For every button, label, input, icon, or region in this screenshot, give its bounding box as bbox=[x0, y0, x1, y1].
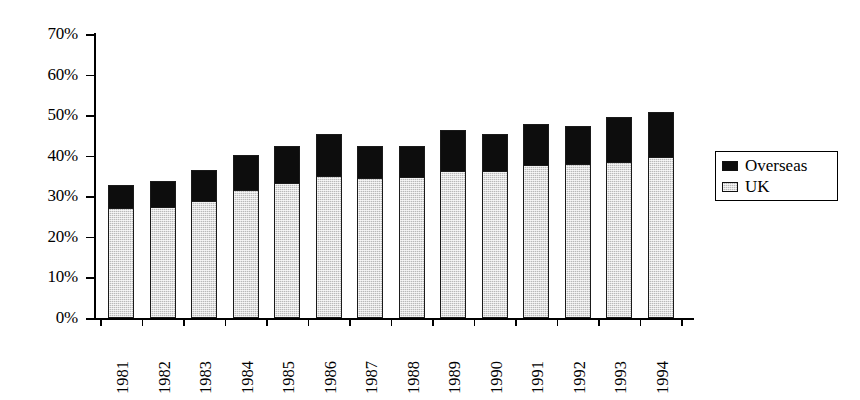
bar-1987 bbox=[357, 146, 383, 318]
x-axis-tick bbox=[515, 318, 517, 326]
y-axis-tick-label: 30% bbox=[0, 186, 78, 206]
bar-segment-overseas bbox=[400, 147, 424, 177]
x-axis-label-text: 1981 bbox=[113, 361, 133, 394]
x-axis-label-text: 1993 bbox=[611, 361, 631, 394]
x-axis-label-1993: 1993 bbox=[609, 330, 629, 394]
y-axis-tick bbox=[86, 156, 94, 158]
x-axis-label-text: 1991 bbox=[528, 361, 548, 394]
x-axis-label-text: 1989 bbox=[445, 361, 465, 394]
bar-segment-overseas bbox=[441, 131, 465, 172]
bar-segment-overseas bbox=[192, 171, 216, 201]
bar-segment-overseas bbox=[358, 147, 382, 179]
x-axis-label-1984: 1984 bbox=[236, 330, 256, 394]
bar-segment-uk bbox=[275, 183, 299, 317]
x-axis-label-text: 1987 bbox=[362, 361, 382, 394]
plot-area bbox=[95, 34, 680, 318]
bar-segment-uk bbox=[109, 208, 133, 317]
legend-item-uk: UK bbox=[722, 178, 831, 195]
x-axis-label-text: 1988 bbox=[404, 361, 424, 394]
bar-1994 bbox=[648, 112, 674, 318]
legend-item-overseas: Overseas bbox=[722, 157, 831, 174]
x-axis-label-text: 1984 bbox=[238, 361, 258, 394]
y-axis-tick-label: 70% bbox=[0, 24, 78, 44]
y-axis-tick bbox=[86, 34, 94, 36]
bar-1983 bbox=[191, 170, 217, 318]
bar-1991 bbox=[523, 124, 549, 318]
bar-segment-overseas bbox=[566, 127, 590, 165]
bar-1981 bbox=[108, 185, 134, 318]
x-axis-label-1985: 1985 bbox=[277, 330, 297, 394]
bar-segment-uk bbox=[524, 165, 548, 317]
bar-segment-uk bbox=[607, 162, 631, 317]
bar-1990 bbox=[482, 134, 508, 318]
x-axis-tick bbox=[225, 318, 227, 326]
x-axis-tick bbox=[100, 318, 102, 326]
bar-segment-overseas bbox=[234, 156, 258, 190]
x-axis-label-1988: 1988 bbox=[402, 330, 422, 394]
x-axis-label-1992: 1992 bbox=[568, 330, 588, 394]
bar-segment-uk bbox=[566, 164, 590, 317]
bar-segment-uk bbox=[234, 190, 258, 317]
overseas-swatch-icon bbox=[722, 161, 738, 171]
bar-segment-uk bbox=[441, 171, 465, 317]
y-axis-tick-label: 10% bbox=[0, 267, 78, 287]
x-axis-tick bbox=[432, 318, 434, 326]
chart-legend: Overseas UK bbox=[715, 151, 838, 201]
bar-segment-uk bbox=[317, 176, 341, 317]
y-axis-tick bbox=[86, 75, 94, 77]
bar-segment-uk bbox=[483, 171, 507, 317]
bar-segment-uk bbox=[151, 207, 175, 317]
x-axis-tick bbox=[266, 318, 268, 326]
x-axis-tick bbox=[183, 318, 185, 326]
x-axis-tick bbox=[349, 318, 351, 326]
x-axis-label-text: 1985 bbox=[279, 361, 299, 394]
x-axis-tick bbox=[640, 318, 642, 326]
x-axis-label-1982: 1982 bbox=[153, 330, 173, 394]
x-axis-label-text: 1994 bbox=[653, 361, 673, 394]
y-axis-tick bbox=[86, 115, 94, 117]
bar-segment-uk bbox=[400, 177, 424, 317]
bar-1989 bbox=[440, 130, 466, 318]
x-axis-label-text: 1990 bbox=[487, 361, 507, 394]
y-axis-tick-label: 40% bbox=[0, 146, 78, 166]
y-axis-tick bbox=[86, 318, 94, 320]
y-axis-tick-label: 50% bbox=[0, 105, 78, 125]
bar-1988 bbox=[399, 146, 425, 318]
y-axis-tick-label: 20% bbox=[0, 227, 78, 247]
y-axis-tick bbox=[86, 196, 94, 198]
bar-segment-overseas bbox=[317, 135, 341, 176]
bar-segment-overseas bbox=[275, 147, 299, 183]
bar-segment-overseas bbox=[524, 125, 548, 164]
x-axis-label-1991: 1991 bbox=[526, 330, 546, 394]
x-axis-tick bbox=[391, 318, 393, 326]
x-axis-tick bbox=[474, 318, 476, 326]
x-axis-label-1986: 1986 bbox=[319, 330, 339, 394]
bar-1985 bbox=[274, 146, 300, 318]
bar-segment-overseas bbox=[607, 118, 631, 162]
x-axis-label-1994: 1994 bbox=[651, 330, 671, 394]
bar-1984 bbox=[233, 155, 259, 319]
x-axis-label-text: 1983 bbox=[196, 361, 216, 394]
x-axis-label-1989: 1989 bbox=[443, 330, 463, 394]
bar-segment-uk bbox=[358, 178, 382, 317]
bar-segment-overseas bbox=[109, 186, 133, 207]
bar-1993 bbox=[606, 117, 632, 318]
x-axis-label-text: 1986 bbox=[321, 361, 341, 394]
x-axis-tick bbox=[557, 318, 559, 326]
x-axis-label-1981: 1981 bbox=[111, 330, 131, 394]
x-axis-tick bbox=[142, 318, 144, 326]
uk-swatch-icon bbox=[722, 182, 738, 192]
y-axis-tick bbox=[86, 237, 94, 239]
bar-1982 bbox=[150, 181, 176, 318]
bar-segment-overseas bbox=[483, 135, 507, 170]
bar-segment-uk bbox=[649, 157, 673, 317]
x-axis-label-1990: 1990 bbox=[485, 330, 505, 394]
legend-label-uk: UK bbox=[745, 178, 770, 195]
x-axis-tick bbox=[681, 318, 683, 326]
bar-1992 bbox=[565, 126, 591, 318]
y-axis-tick-label: 60% bbox=[0, 65, 78, 85]
y-axis-tick-label: 0% bbox=[0, 308, 78, 328]
x-axis-label-text: 1992 bbox=[570, 361, 590, 394]
bar-1986 bbox=[316, 134, 342, 318]
x-axis-tick bbox=[308, 318, 310, 326]
